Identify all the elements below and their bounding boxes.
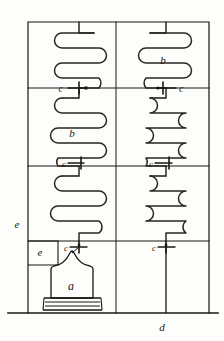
- furnace-grate-right: [101, 298, 102, 310]
- casing-label-inner: e: [38, 246, 43, 258]
- coil-right-middle-serpentine: [146, 98, 186, 166]
- casing-box-outline: [28, 241, 58, 265]
- coil-right-lower: [146, 176, 186, 241]
- coil-right-lower-serpentine: [146, 176, 186, 241]
- furnace-flue: [72, 247, 79, 253]
- coil-left-top: [55, 22, 107, 88]
- casing-label-outer: e: [15, 218, 20, 230]
- valve-left-lower-plug: [78, 244, 81, 247]
- valve-left-mid-label: c: [62, 159, 66, 169]
- coil-label-left-middle: b: [69, 127, 75, 139]
- valve-left-upper-plug: [84, 86, 88, 90]
- valve-right-upper-label: c: [179, 83, 184, 94]
- coil-left-middle: [51, 98, 107, 166]
- valve-right-upper[interactable]: [150, 82, 176, 98]
- coil-left-lower-serpentine: [51, 176, 107, 241]
- figure-page: c b c b c: [0, 0, 224, 341]
- coil-left-lower: [51, 176, 107, 241]
- coil-label-right-top: b: [160, 54, 166, 66]
- coil-left-middle-serpentine: [51, 98, 107, 166]
- coil-right-middle: [146, 98, 186, 166]
- frame-outline: [28, 22, 209, 313]
- furnace-grate-left: [43, 298, 44, 310]
- valve-right-lower-plug: [165, 244, 168, 247]
- coil-left-top-serpentine: [55, 33, 107, 88]
- valve-left-upper[interactable]: [62, 82, 88, 98]
- coil-right-top-inlet: [150, 22, 166, 33]
- furnace-label: a: [68, 279, 74, 293]
- technical-diagram: c b c b c: [0, 0, 224, 341]
- valve-right-upper-plug: [156, 86, 159, 89]
- valve-right-lower-label: c: [152, 243, 156, 253]
- casing-box: [28, 241, 58, 265]
- valve-right-mid-label: c: [149, 159, 153, 169]
- valve-left-upper-downcomer: [62, 88, 79, 98]
- frame-group: [8, 22, 218, 313]
- valve-left-lower-label: c: [64, 243, 68, 253]
- outlet-label: d: [159, 321, 165, 333]
- valve-left-upper-label: c: [59, 83, 64, 94]
- coil-left-top-inlet: [79, 22, 94, 33]
